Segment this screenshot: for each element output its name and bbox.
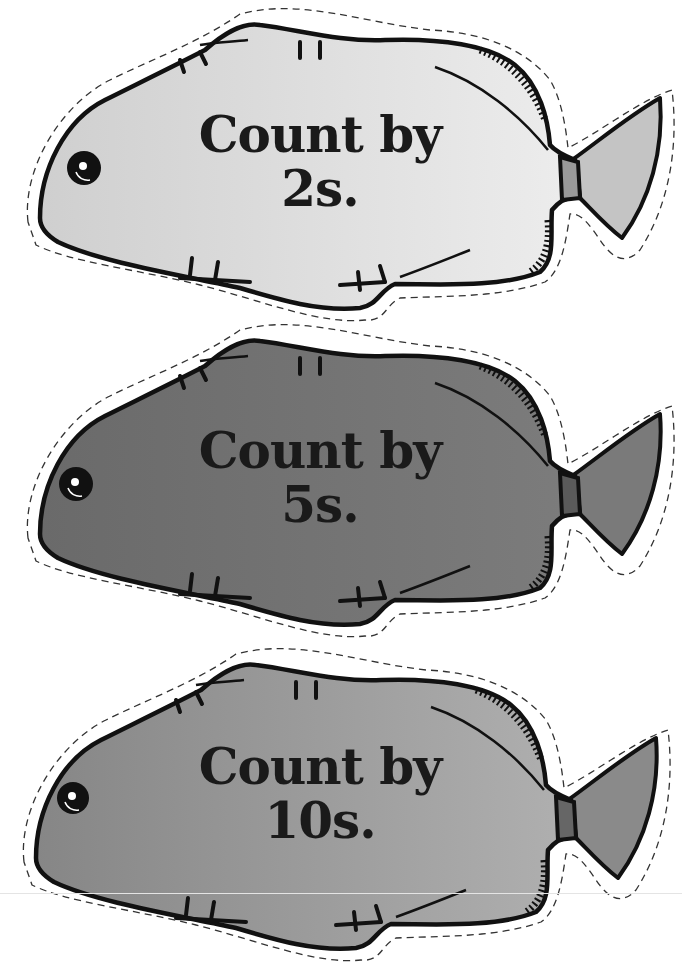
fish-label-line2: 5s. bbox=[160, 478, 480, 532]
eye-icon bbox=[59, 467, 93, 501]
fish-cutout-count-by-2: Count by 2s. bbox=[0, 0, 682, 320]
eye-icon bbox=[67, 151, 101, 185]
fish-label: Count by 2s. bbox=[160, 108, 480, 216]
fish-label-line2: 2s. bbox=[160, 162, 480, 216]
fish-label: Count by 10s. bbox=[160, 740, 480, 848]
eye-icon bbox=[57, 782, 89, 814]
fish-label-line1: Count by bbox=[160, 424, 480, 478]
tail-peduncle bbox=[560, 473, 580, 516]
fish-cutout-count-by-5: Count by 5s. bbox=[0, 316, 682, 636]
tail-peduncle bbox=[556, 797, 576, 840]
fish-label: Count by 5s. bbox=[160, 424, 480, 532]
fish-label-line1: Count by bbox=[160, 740, 480, 794]
fish-label-line2: 10s. bbox=[160, 794, 480, 848]
scan-artifact-line bbox=[0, 893, 682, 894]
fish-cutout-count-by-10: Count by 10s. bbox=[0, 640, 682, 960]
tail-peduncle bbox=[560, 157, 580, 200]
fish-label-line1: Count by bbox=[160, 108, 480, 162]
